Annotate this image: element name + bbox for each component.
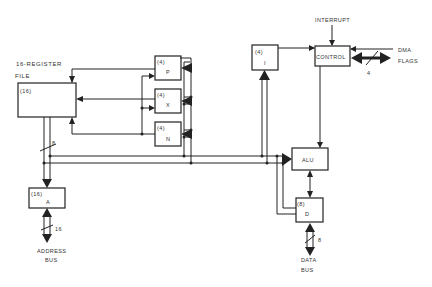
flags-width: 4 <box>367 70 370 76</box>
register-file-title: 16-REGISTER <box>16 61 62 67</box>
regfile-bus-width: 8 <box>52 140 55 146</box>
n-register-width: (4) <box>157 125 165 131</box>
a-register-block: (16) A <box>29 188 65 208</box>
n-register-name: N <box>166 136 170 142</box>
data-bus-width: 8 <box>318 237 321 243</box>
n-register-block: (4) N <box>155 122 181 146</box>
d-register-block: (8) D <box>296 198 323 222</box>
x-register-width: (4) <box>157 92 165 98</box>
x-register-name: X <box>166 102 170 108</box>
cpu-block-diagram: 16-REGISTER FILE (16) (4) P (4) X (4) N … <box>0 0 432 287</box>
d-register-name: D <box>305 211 309 217</box>
dma-label: DMA <box>398 47 411 53</box>
address-bus-label: ADDRESS <box>37 248 66 254</box>
address-bus-width: 16 <box>55 226 62 232</box>
register-file-title-2: FILE <box>15 73 30 79</box>
x-to-regfile-arrow <box>76 96 83 102</box>
i-register-name: I <box>264 60 266 66</box>
p-input-arrow <box>181 63 192 73</box>
data-bus-label-2: BUS <box>301 267 314 273</box>
flags-bus-arrow: 4 <box>351 51 391 76</box>
d-register-width: (8) <box>297 201 305 207</box>
flags-label: FLAGS <box>398 58 418 64</box>
data-bus-label: DATA <box>301 257 316 263</box>
i-register-width: (4) <box>255 49 263 55</box>
control-block: CONTROL <box>315 46 350 66</box>
a-register-width: (16) <box>31 191 42 197</box>
i-register-block: (4) I <box>252 45 278 70</box>
address-bus-label-2: BUS <box>45 257 58 263</box>
address-bus-arrow: 16 <box>41 208 62 243</box>
a-register-name: A <box>46 199 50 205</box>
regfile-output-bus: 8 <box>40 117 56 188</box>
interrupt-label: INTERRUPT <box>315 17 350 23</box>
data-bus-arrow: 8 <box>305 223 321 256</box>
bus-to-i-arrow <box>259 70 270 80</box>
x-register-block: (4) X <box>155 89 181 113</box>
alu-block: ALU <box>292 148 328 170</box>
register-file-width: (16) <box>20 88 31 94</box>
alu-label: ALU <box>302 157 314 163</box>
p-register-name: P <box>166 69 170 75</box>
control-label: CONTROL <box>316 54 346 60</box>
p-register-block: (4) P <box>155 56 181 80</box>
n-to-regfile <box>72 119 155 134</box>
p-register-width: (4) <box>157 59 165 65</box>
register-file-block: (16) <box>18 83 76 117</box>
alu-d-arrow <box>307 170 313 198</box>
